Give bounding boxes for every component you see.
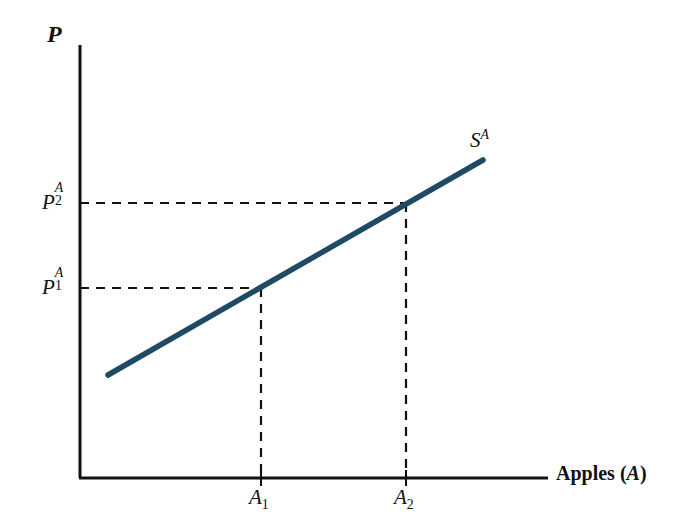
x-tick-label-quantity-2: A2: [394, 487, 414, 512]
x-axis-title-variable: A: [627, 462, 640, 484]
supply-curve-figure: P Apples (A) PA2 PA1 A1 A2 SA: [0, 0, 687, 529]
price-2-base: P: [42, 190, 55, 214]
plot-canvas: [0, 0, 687, 529]
x-axis-title: Apples (A): [556, 463, 647, 483]
supply-curve: [108, 160, 483, 375]
price-1-subscript: 1: [55, 279, 62, 293]
price-1-base: P: [42, 275, 55, 299]
price-2-subscript: 2: [55, 194, 62, 208]
quantity-2-subscript: 2: [407, 497, 414, 512]
price-2-indices: A2: [55, 188, 68, 209]
quantity-2-base: A: [394, 485, 407, 509]
quantity-1-subscript: 1: [262, 497, 269, 512]
y-tick-label-price-1: PA1: [42, 273, 68, 298]
supply-label-superscript: A: [481, 127, 489, 142]
x-tick-label-quantity-1: A1: [249, 487, 269, 512]
supply-label-base: S: [470, 128, 481, 152]
price-1-indices: A1: [55, 273, 68, 294]
quantity-1-base: A: [249, 485, 262, 509]
supply-curve-label: SA: [470, 128, 489, 151]
x-axis-title-text: Apples: [556, 462, 615, 484]
y-axis-title: P: [47, 22, 62, 46]
y-tick-label-price-2: PA2: [42, 188, 68, 213]
